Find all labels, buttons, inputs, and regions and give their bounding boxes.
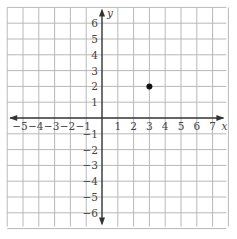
y-tick-label: −4 (83, 175, 99, 187)
data-points (146, 83, 152, 89)
y-tick-label: −1 (83, 128, 98, 140)
y-tick-label: −3 (83, 159, 98, 171)
x-tick-label: 7 (209, 120, 216, 132)
x-tick-label: 2 (130, 120, 137, 132)
y-axis-arrow-down-icon (99, 218, 105, 226)
data-point (146, 83, 152, 89)
x-tick-label: 5 (178, 120, 185, 132)
y-tick-label: −2 (83, 144, 98, 156)
y-tick-label: −6 (83, 207, 99, 219)
y-axis-label: y (106, 7, 114, 19)
y-tick-label: 6 (91, 17, 98, 29)
coordinate-plane: −5−4−3−2−11234567654321−1−2−3−4−5−6xy (0, 0, 237, 239)
y-tick-label: −5 (83, 191, 98, 203)
x-tick-label: −3 (44, 120, 59, 132)
x-tick-label: 6 (193, 120, 200, 132)
axes (9, 8, 224, 225)
x-tick-label: 1 (114, 120, 121, 132)
y-axis-arrow-up-icon (99, 8, 105, 16)
x-tick-label: −5 (12, 120, 27, 132)
y-tick-label: 4 (91, 49, 98, 61)
y-tick-label: 5 (91, 33, 98, 45)
y-tick-label: 1 (91, 96, 98, 108)
x-tick-label: −4 (28, 120, 44, 132)
x-axis-label: x (221, 120, 227, 132)
y-tick-label: 3 (91, 65, 98, 77)
y-tick-label: 2 (91, 80, 98, 92)
x-tick-label: 4 (162, 120, 169, 132)
x-tick-label: 3 (146, 120, 153, 132)
x-tick-label: −2 (60, 120, 75, 132)
